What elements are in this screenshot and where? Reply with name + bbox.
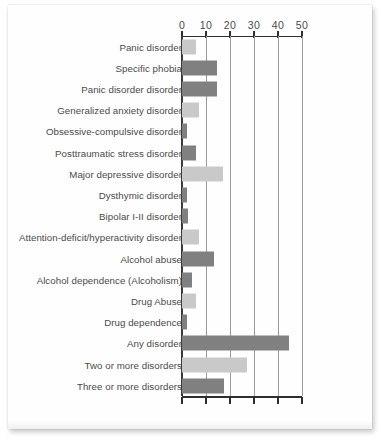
bar [182, 293, 196, 308]
bar-row: Generalized anxiety disorder [8, 100, 372, 121]
bar [182, 230, 199, 245]
bar-row: Specific phobia [8, 57, 372, 78]
bar [182, 103, 199, 118]
bar-chart: 01020304050Panic disorderSpecific phobia… [8, 5, 372, 429]
bar-row: Panic disorder disorder [8, 78, 372, 99]
category-label: Drug Abuse [131, 295, 182, 306]
bar [182, 145, 196, 160]
x-axis-bottom-tick-mark-50 [301, 397, 302, 404]
category-label: Alcohol abuse [120, 253, 182, 264]
category-label: Panic disorder disorder [81, 83, 182, 94]
x-axis-bottom-tick-mark-40 [277, 397, 278, 404]
bar-row: Panic disorder [8, 36, 372, 57]
category-label: Obsessive-compulsive disorder [46, 126, 182, 137]
category-label: Generalized anxiety disorder [57, 105, 182, 116]
bar-row: Dysthymic disorder [8, 184, 372, 205]
category-label: Alcohol dependence (Alcoholism) [37, 274, 182, 285]
x-axis-bottom-tick-mark-10 [205, 397, 206, 404]
category-label: Three or more disorders [77, 380, 182, 391]
bar-row: Two or more disorders [8, 354, 372, 375]
bar [182, 187, 187, 202]
bar-row: Posttraumatic stress disorder [8, 142, 372, 163]
bar [182, 378, 224, 393]
bar [182, 166, 223, 181]
bar-row: Attention-deficit/hyperactivity disorder [8, 227, 372, 248]
category-label: Two or more disorders [85, 359, 182, 370]
bar [182, 209, 188, 224]
bar [182, 251, 214, 266]
bar [182, 272, 192, 287]
category-label: Any disorder [127, 338, 182, 349]
category-label: Bipolar I-II disorder [99, 211, 182, 222]
bar-row: Obsessive-compulsive disorder [8, 121, 372, 142]
bar [182, 60, 217, 75]
bar-row: Alcohol dependence (Alcoholism) [8, 269, 372, 290]
category-label: Drug dependence [104, 317, 182, 328]
category-label: Specific phobia [116, 62, 182, 73]
category-label: Dysthymic disorder [99, 189, 182, 200]
x-axis-tick-label-50: 50 [287, 19, 317, 31]
category-label: Attention-deficit/hyperactivity disorder [19, 232, 182, 243]
category-label: Posttraumatic stress disorder [55, 147, 182, 158]
bar-row: Major depressive disorder [8, 163, 372, 184]
bar [182, 315, 187, 330]
x-axis-bottom-tick-mark-20 [229, 397, 230, 404]
bar [182, 336, 289, 351]
x-axis-bottom-tick-mark-0 [181, 397, 182, 404]
bar [182, 124, 187, 139]
bar-row: Three or more disorders [8, 375, 372, 396]
category-label: Panic disorder [119, 41, 182, 52]
x-axis-bottom-line [182, 396, 302, 397]
bar [182, 81, 217, 96]
x-axis-bottom-tick-mark-30 [253, 397, 254, 404]
bar-row: Any disorder [8, 333, 372, 354]
bar-row: Drug dependence [8, 312, 372, 333]
category-label: Major depressive disorder [69, 168, 182, 179]
bar [182, 39, 196, 54]
bar-row: Drug Abuse [8, 290, 372, 311]
bar-row: Bipolar I-II disorder [8, 206, 372, 227]
bar-row: Alcohol abuse [8, 248, 372, 269]
scanned-page-sheet: 01020304050Panic disorderSpecific phobia… [8, 5, 372, 429]
bar [182, 357, 247, 372]
